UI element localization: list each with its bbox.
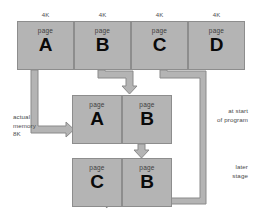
memory-start-page-a-letter: A [90,109,104,129]
annotation-later-stage-line-2: stage [198,172,248,181]
memory-later-page-c: page C [72,158,122,207]
arrow-page-b-to-memory [98,70,137,94]
size-label-page-c: 4K [131,11,188,19]
paging-diagram: 4K 4K 4K 4K page A page B page C page D … [0,0,256,222]
annotation-actual-memory-line-2: memory [13,122,61,131]
memory-start-page-b-letter: B [140,109,154,129]
virtual-page-a-letter: A [39,35,53,55]
memory-later-page-b-letter: B [140,172,154,192]
annotation-at-start-line-2: of program [198,116,248,125]
virtual-page-c: page C [131,21,188,70]
annotation-later-stage: later stage [198,163,248,180]
virtual-page-b: page B [74,21,131,70]
memory-start-page-a: page A [72,95,122,144]
annotation-at-start-line-1: at start [198,107,248,116]
size-label-page-b: 4K [74,11,131,19]
virtual-page-c-letter: C [153,35,167,55]
virtual-page-d: page D [188,21,245,70]
annotation-at-start-of-program: at start of program [198,107,248,124]
memory-later-page-c-letter: C [90,172,104,192]
virtual-page-b-letter: B [96,35,110,55]
arrow-page-b-persists-down [134,144,149,158]
memory-start-page-b: page B [122,95,172,144]
annotation-actual-memory: actual memory 8K [13,113,61,139]
annotation-actual-memory-line-1: actual [13,113,61,122]
virtual-page-a: page A [17,21,74,70]
size-label-page-d: 4K [188,11,245,19]
size-label-page-a: 4K [17,11,74,19]
annotation-actual-memory-line-3: 8K [13,130,61,139]
annotation-later-stage-line-1: later [198,163,248,172]
virtual-page-d-letter: D [210,35,224,55]
memory-later-page-b: page B [122,158,172,207]
